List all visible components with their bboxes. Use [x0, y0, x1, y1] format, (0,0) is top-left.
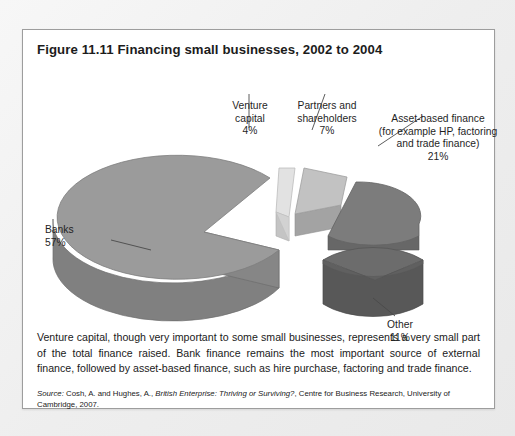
pie-slice-venture-capital[interactable]	[276, 168, 295, 241]
figure-caption: Venture capital, though very important t…	[37, 330, 480, 377]
source-prefix: Source:	[37, 389, 64, 398]
slice-label-banks: Banks57%	[45, 224, 109, 249]
slice-label-venture-capital: Venturecapital4%	[219, 100, 281, 138]
pie-chart: Venturecapital4% Partners andshareholder…	[23, 64, 494, 326]
figure-page: Figure 11.11 Financing small businesses,…	[0, 0, 515, 436]
source-title: British Enterprise: Thriving or Survivin…	[155, 389, 294, 398]
slice-label-partners-shareholders: Partners andshareholders7%	[281, 100, 373, 138]
slice-label-asset-based-finance: Asset-based finance(for example HP, fact…	[363, 113, 513, 163]
figure-panel: Figure 11.11 Financing small businesses,…	[22, 29, 495, 409]
pie-slice-other[interactable]	[323, 247, 423, 316]
figure-source: Source: Cosh, A. and Hughes, A., British…	[37, 388, 480, 410]
source-authors: Cosh, A. and Hughes, A.,	[66, 389, 153, 398]
figure-title: Figure 11.11 Financing small businesses,…	[37, 42, 382, 57]
